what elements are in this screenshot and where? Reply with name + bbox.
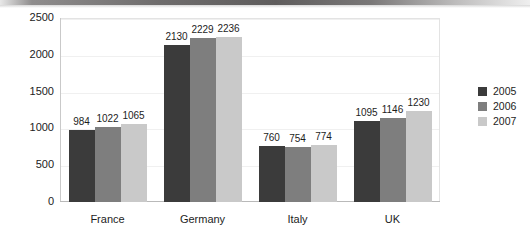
x-axis-category-label-italy: Italy <box>243 214 353 225</box>
bar-uk-2005[interactable] <box>354 121 380 202</box>
bar-france-2005[interactable] <box>69 130 95 202</box>
bar-italy-2007[interactable] <box>311 145 337 202</box>
bar-italy-2006[interactable] <box>285 147 311 202</box>
scan-artifact-fade <box>0 5 530 8</box>
y-axis-tick-label: 2500 <box>4 12 54 23</box>
chart-legend: 200520062007 <box>478 84 526 129</box>
x-axis-category-label-uk: UK <box>338 214 448 225</box>
bar-group-germany: 213022292236 <box>164 18 242 202</box>
bar-uk-2007[interactable] <box>406 111 432 202</box>
bar-group-italy: 760754774 <box>259 18 337 202</box>
bars-layer: 9841022106521302229223676075477410951146… <box>60 18 440 202</box>
legend-label-2006: 2006 <box>493 101 516 112</box>
legend-label-2005: 2005 <box>493 86 516 97</box>
bar-group-uk: 109511461230 <box>354 18 432 202</box>
legend-item-2005[interactable]: 2005 <box>478 84 526 99</box>
y-axis-tick-label: 500 <box>4 159 54 170</box>
x-axis-category-label-germany: Germany <box>148 214 258 225</box>
bar-group-france: 98410221065 <box>69 18 147 202</box>
bar-value-label: 774 <box>304 132 344 142</box>
x-axis-category-label-france: France <box>53 214 163 225</box>
legend-swatch-2005 <box>478 87 487 96</box>
legend-item-2006[interactable]: 2006 <box>478 99 526 114</box>
legend-item-2007[interactable]: 2007 <box>478 114 526 129</box>
y-axis-tick-label: 1000 <box>4 122 54 133</box>
legend-label-2007: 2007 <box>493 116 516 127</box>
bar-germany-2005[interactable] <box>164 45 190 202</box>
bar-value-label: 1230 <box>399 98 439 108</box>
bar-france-2006[interactable] <box>95 127 121 202</box>
y-axis-tick-label: 2000 <box>4 49 54 60</box>
bar-value-label: 2236 <box>209 24 249 34</box>
bar-value-label: 1065 <box>114 111 154 121</box>
bar-italy-2005[interactable] <box>259 146 285 202</box>
bar-france-2007[interactable] <box>121 124 147 202</box>
chart-screenshot: 05001000150020002500 9841022106521302229… <box>0 0 530 245</box>
bar-germany-2006[interactable] <box>190 38 216 202</box>
legend-swatch-2006 <box>478 102 487 111</box>
y-axis: 05001000150020002500 <box>0 0 54 245</box>
legend-swatch-2007 <box>478 117 487 126</box>
y-axis-tick-label: 1500 <box>4 86 54 97</box>
bar-germany-2007[interactable] <box>216 37 242 202</box>
bar-uk-2006[interactable] <box>380 118 406 202</box>
y-axis-tick-label: 0 <box>4 196 54 207</box>
